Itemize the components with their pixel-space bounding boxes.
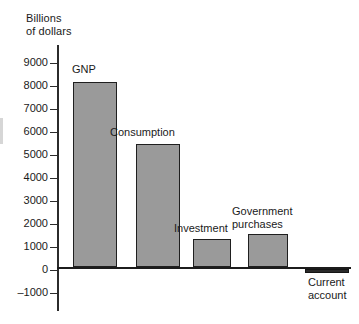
y-axis-tick-label: 5000 bbox=[24, 148, 48, 160]
y-axis-tick bbox=[50, 132, 57, 133]
y-axis-tick-label: 0 bbox=[42, 263, 48, 275]
y-axis-tick bbox=[50, 270, 57, 271]
bar-investment bbox=[193, 239, 231, 267]
y-axis-tick bbox=[50, 293, 57, 294]
y-axis-tick-label: 6000 bbox=[24, 125, 48, 137]
bar-government-purchases bbox=[248, 234, 288, 267]
y-axis-tick-label: 2000 bbox=[24, 217, 48, 229]
y-axis-tick bbox=[50, 86, 57, 87]
y-axis-tick bbox=[50, 201, 57, 202]
bar-label-gnp: GNP bbox=[72, 63, 96, 76]
y-axis-tick-label: –1000 bbox=[17, 286, 48, 298]
y-axis-title: Billions of dollars bbox=[26, 12, 72, 38]
y-axis-line bbox=[57, 45, 59, 311]
y-axis-tick-label: 1000 bbox=[24, 240, 48, 252]
y-axis-tick-label: 8000 bbox=[24, 79, 48, 91]
bar-label-government-purchases: Government purchases bbox=[232, 205, 293, 230]
y-axis-tick bbox=[50, 178, 57, 179]
y-axis-tick-label: 7000 bbox=[24, 102, 48, 114]
bar-chart-figure: Billions of dollars 90008000700060005000… bbox=[0, 0, 359, 324]
y-axis-tick bbox=[50, 63, 57, 64]
y-axis-tick-label: 3000 bbox=[24, 194, 48, 206]
bar-gnp bbox=[73, 82, 117, 267]
y-axis-tick bbox=[50, 155, 57, 156]
bar-label-current-account: Current account bbox=[308, 276, 347, 301]
y-axis-tick-label: 4000 bbox=[24, 171, 48, 183]
y-axis-tick bbox=[50, 224, 57, 225]
bar-label-investment: Investment bbox=[174, 222, 228, 235]
bar-consumption bbox=[136, 144, 180, 267]
y-axis-tick-label: 9000 bbox=[24, 56, 48, 68]
bar-current-account bbox=[305, 269, 349, 273]
page-edge-artifact bbox=[0, 118, 3, 144]
bar-label-consumption: Consumption bbox=[110, 126, 175, 139]
y-axis-tick bbox=[50, 247, 57, 248]
y-axis-tick bbox=[50, 109, 57, 110]
